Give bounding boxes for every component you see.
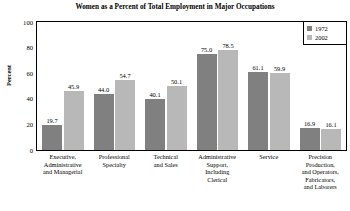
bar-value-label: 16.1 bbox=[318, 121, 344, 128]
bar-1972-2[interactable] bbox=[145, 99, 165, 150]
y-axis-tick-label: 20 bbox=[17, 121, 33, 128]
y-axis-title: Percent bbox=[5, 54, 12, 98]
x-axis-label-line: Including bbox=[188, 168, 248, 176]
y-axis-tick-label: 100 bbox=[17, 19, 33, 26]
legend-item-1972[interactable]: 1972 bbox=[307, 24, 343, 32]
x-axis-label-line: and Managerial bbox=[33, 168, 93, 176]
chart-title: Women as a Percent of Total Employment i… bbox=[0, 3, 350, 12]
chart-legend: 19722002 bbox=[303, 21, 347, 45]
bar-value-label: 45.9 bbox=[61, 83, 87, 90]
bar-value-label: 50.1 bbox=[164, 78, 190, 85]
bar-2002-0[interactable] bbox=[64, 91, 84, 150]
y-axis-tick-labels: 020406080100 bbox=[14, 0, 33, 211]
bar-1972-1[interactable] bbox=[94, 94, 114, 150]
bar-2002-4[interactable] bbox=[270, 73, 290, 150]
bar-value-label: 40.1 bbox=[142, 91, 168, 98]
x-axis-label-line: and Laborers bbox=[291, 183, 350, 191]
legend-swatch-icon bbox=[307, 26, 312, 31]
bar-chart: Women as a Percent of Total Employment i… bbox=[0, 0, 350, 211]
bar-value-label: 44.0 bbox=[91, 86, 117, 93]
x-axis-category-labels: Executive,Administrativeand ManagerialPr… bbox=[37, 153, 346, 211]
bar-1972-3[interactable] bbox=[197, 54, 217, 150]
x-axis-label-line: Production, bbox=[291, 161, 350, 169]
x-axis-label-line: Precision bbox=[291, 153, 350, 161]
bar-value-label: 54.7 bbox=[112, 72, 138, 79]
x-axis-label-line: and Operators, bbox=[291, 168, 350, 176]
bar-2002-1[interactable] bbox=[115, 80, 135, 150]
bar-group: 75.078.5 bbox=[192, 22, 244, 150]
bar-1972-0[interactable] bbox=[42, 125, 62, 150]
bar-1972-5[interactable] bbox=[300, 128, 320, 150]
bar-group: 61.159.9 bbox=[243, 22, 295, 150]
bar-value-label: 19.7 bbox=[39, 117, 65, 124]
y-axis-tick-label: 60 bbox=[17, 70, 33, 77]
y-axis-tick-label: 40 bbox=[17, 95, 33, 102]
legend-label: 2002 bbox=[315, 34, 328, 41]
bars-layer: 19.745.944.054.740.150.175.078.561.159.9… bbox=[37, 22, 346, 150]
legend-item-2002[interactable]: 2002 bbox=[307, 33, 343, 41]
bar-2002-5[interactable] bbox=[321, 129, 341, 150]
x-axis-label-line: Clerical bbox=[188, 176, 248, 184]
x-axis-label-line: Fabricators, bbox=[291, 176, 350, 184]
x-axis-label-line: Support, bbox=[188, 161, 248, 169]
bar-value-label: 78.5 bbox=[215, 42, 241, 49]
y-axis-tick-label: 0 bbox=[17, 147, 33, 154]
bar-1972-4[interactable] bbox=[248, 72, 268, 150]
bar-2002-2[interactable] bbox=[167, 86, 187, 150]
bar-group: 44.054.7 bbox=[89, 22, 141, 150]
bar-group: 40.150.1 bbox=[140, 22, 192, 150]
legend-swatch-icon bbox=[307, 35, 312, 40]
bar-value-label: 59.9 bbox=[267, 65, 293, 72]
x-axis-label-5: PrecisionProduction,and Operators,Fabric… bbox=[291, 153, 350, 191]
bar-group: 19.745.9 bbox=[37, 22, 89, 150]
bar-2002-3[interactable] bbox=[218, 50, 238, 150]
legend-label: 1972 bbox=[315, 25, 328, 32]
y-axis-tick-label: 80 bbox=[17, 44, 33, 51]
